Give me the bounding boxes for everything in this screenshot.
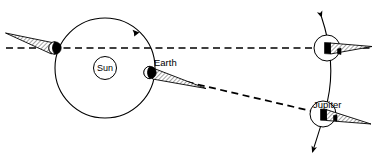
diagram-canvas: Sun Earth [0, 0, 378, 163]
jupiter-label: Jupiter [313, 99, 342, 110]
jupiter-position-2: Jupiter [310, 99, 371, 127]
earth-position-1 [6, 33, 62, 54]
jupiter-position-1 [314, 35, 372, 61]
astronomy-diagram: Sun Earth [0, 0, 378, 163]
earth-1-shadow-cone [6, 33, 53, 54]
earth-position-2: Earth [144, 57, 206, 89]
jupiter-2-satellite [334, 115, 338, 121]
jupiter-1-night-side [325, 43, 331, 55]
earth-label: Earth [154, 57, 177, 68]
jupiter-1-satellite [338, 48, 342, 55]
sun-body: Sun [94, 57, 117, 80]
jupiter-2-night-side [321, 109, 327, 121]
earth-2-shadow-cone [152, 68, 207, 89]
sun-label: Sun [97, 63, 113, 73]
